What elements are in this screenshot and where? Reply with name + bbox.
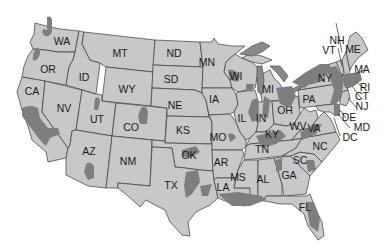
- label-me: ME: [345, 43, 361, 55]
- label-nj: NJ: [356, 100, 369, 112]
- label-al: AL: [257, 173, 270, 185]
- label-nc: NC: [312, 140, 328, 152]
- label-dc: DC: [342, 131, 358, 143]
- label-wa: WA: [54, 35, 71, 47]
- label-ky: KY: [265, 128, 279, 140]
- label-mo: MO: [210, 131, 227, 143]
- label-co: CO: [123, 121, 139, 133]
- lake-superior: [240, 42, 270, 56]
- label-ne: NE: [168, 99, 183, 111]
- label-mn: MN: [199, 56, 215, 68]
- label-sd: SD: [164, 73, 179, 85]
- label-ms: MS: [230, 171, 246, 183]
- label-ia: IA: [209, 93, 219, 105]
- label-ok: OK: [181, 149, 196, 161]
- label-wy: WY: [119, 83, 136, 95]
- label-ar: AR: [214, 156, 229, 168]
- label-in: IN: [256, 112, 267, 124]
- label-ks: KS: [176, 124, 190, 136]
- label-nd: ND: [166, 47, 182, 59]
- label-wi: WI: [230, 70, 243, 82]
- label-or: OR: [40, 63, 56, 75]
- label-va: VA: [307, 122, 320, 134]
- us-map: WA OR CA ID NV MT WY UT AZ CO NM ND SD N…: [0, 0, 388, 250]
- label-wv: WV: [290, 120, 307, 132]
- label-ca: CA: [25, 85, 40, 97]
- label-sc: SC: [293, 154, 308, 166]
- label-nm: NM: [120, 155, 136, 167]
- label-fl: FL: [299, 201, 311, 213]
- label-ga: GA: [281, 169, 296, 181]
- label-mi: MI: [262, 83, 274, 95]
- label-ny: NY: [318, 72, 333, 84]
- label-il: IL: [238, 112, 247, 124]
- label-oh: OH: [277, 104, 293, 116]
- label-az: AZ: [82, 145, 96, 157]
- label-mt: MT: [112, 47, 128, 59]
- label-tx: TX: [164, 179, 177, 191]
- label-pa: PA: [302, 93, 315, 105]
- label-tn: TN: [255, 143, 269, 155]
- label-ut: UT: [90, 113, 105, 125]
- label-la: LA: [217, 181, 230, 193]
- label-nv: NV: [57, 102, 72, 114]
- label-id: ID: [79, 71, 90, 83]
- label-nh: NH: [329, 34, 344, 46]
- label-ma: MA: [354, 63, 370, 75]
